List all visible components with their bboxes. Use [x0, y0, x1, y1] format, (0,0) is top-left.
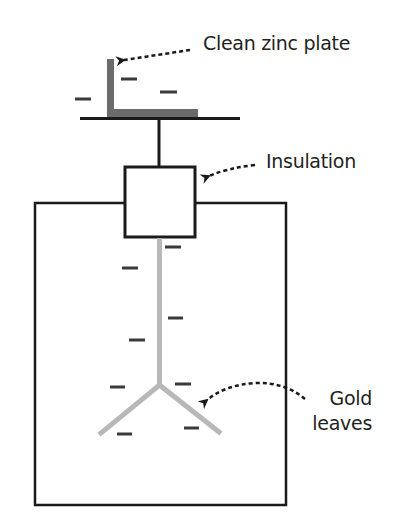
- gold-leaves-label-line1: Gold: [330, 387, 373, 409]
- zinc-plate-label: Clean zinc plate: [203, 32, 350, 54]
- zinc-plate-arrow: [124, 50, 190, 60]
- gold-leaves-arrow: [207, 383, 305, 400]
- negative-charges: [75, 78, 199, 436]
- gold-leaves: [101, 385, 219, 433]
- negative-charge-icon: [175, 383, 191, 386]
- negative-charge-icon: [122, 267, 138, 270]
- gold-leaves-label-line2: leaves: [312, 412, 372, 434]
- diagram-canvas: [0, 0, 404, 528]
- electroscope-diagram: Clean zinc plate Insulation Gold leaves: [0, 0, 404, 528]
- negative-charge-icon: [117, 433, 132, 436]
- negative-charge-icon: [75, 98, 91, 101]
- negative-charge-icon: [129, 339, 145, 342]
- negative-charge-icon: [168, 317, 183, 320]
- negative-charge-icon: [165, 246, 181, 249]
- insulation-block: [125, 167, 195, 237]
- insulation-arrow: [209, 165, 255, 176]
- zinc-plate: [107, 59, 198, 117]
- negative-charge-icon: [160, 91, 177, 94]
- insulation-label: Insulation: [266, 150, 356, 172]
- negative-charge-icon: [121, 78, 137, 81]
- negative-charge-icon: [110, 386, 125, 389]
- negative-charge-icon: [184, 427, 199, 430]
